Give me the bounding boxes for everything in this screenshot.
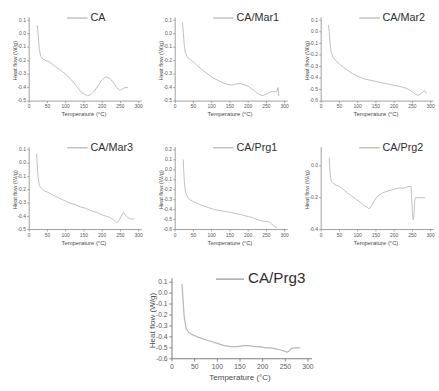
- x-tick-label: 250: [116, 104, 125, 109]
- y-tick-label: 0.1: [19, 147, 26, 152]
- panel-ca-mar2: 0501001502002503000.10.0-0.1-0.2-0.3-0.4…: [292, 0, 438, 130]
- plot-area: 0501001502002503000.10.0-0.1-0.2-0.3-0.4…: [120, 258, 320, 391]
- y-tick-label: -0.4: [163, 207, 172, 212]
- x-axis-title: Temperature (°C): [354, 240, 399, 246]
- y-tick-label: 0.1: [165, 157, 172, 162]
- y-tick-label: -0.3: [17, 71, 26, 76]
- data-curve: [183, 23, 279, 96]
- panel-ca-prg2: 0501001502002503000.0-0.2-0.4Temperature…: [292, 130, 438, 258]
- y-tick-label: -0.5: [309, 87, 318, 92]
- x-tick-label: 300: [281, 233, 290, 238]
- plot-area: 0501001502002503000.10.0-0.1-0.2-0.3-0.4…: [292, 0, 438, 130]
- y-tick-label: -0.4: [17, 214, 26, 219]
- y-tick-label: -0.4: [309, 227, 318, 232]
- legend-label: CA/Prg2: [383, 141, 424, 153]
- x-tick-label: 150: [226, 104, 235, 109]
- plot-area: 0501001502002503000.10.0-0.1-0.2-0.3-0.4…: [0, 0, 146, 130]
- y-axis-title: Heat flow (W/g): [158, 170, 164, 209]
- x-tick-label: 300: [281, 104, 290, 109]
- y-tick-label: 0.2: [165, 147, 172, 152]
- x-tick-label: 200: [98, 104, 107, 109]
- y-axis-title: Heat flow (W/g): [12, 41, 18, 81]
- y-axis-title: Heat flow (W/g): [158, 41, 164, 81]
- y-tick-label: -0.4: [163, 85, 172, 90]
- data-curve: [37, 154, 134, 223]
- x-axis-title: Temperature (°C): [208, 111, 253, 117]
- y-tick-label: 0.0: [158, 289, 168, 296]
- x-tick-label: 50: [45, 104, 51, 109]
- y-tick-label: -0.1: [17, 44, 26, 49]
- y-axis-title: Heat flow (W/g): [12, 170, 18, 209]
- x-tick-label: 300: [302, 363, 314, 370]
- plot-area: 0501001502002503000.10.0-0.1-0.2-0.3-0.4…: [146, 0, 292, 130]
- x-tick-label: 250: [279, 363, 291, 370]
- y-tick-label: -0.5: [17, 227, 26, 232]
- y-tick-label: -0.1: [163, 44, 172, 49]
- axis-lines: [321, 17, 433, 101]
- y-tick-label: -0.4: [309, 75, 318, 80]
- data-curve: [181, 284, 299, 352]
- panel-row-2: 0501001502002503000.10.0-0.1-0.2-0.3-0.4…: [0, 130, 439, 258]
- x-tick-label: 300: [427, 104, 436, 109]
- x-tick-label: 50: [45, 233, 51, 238]
- axis-lines: [175, 17, 287, 101]
- panel-ca-mar1: 0501001502002503000.10.0-0.1-0.2-0.3-0.4…: [146, 0, 292, 130]
- x-axis-title: Temperature (°C): [354, 111, 399, 117]
- x-tick-label: 150: [372, 233, 381, 238]
- plot-area: 0501001502002503000.10.0-0.1-0.2-0.3-0.4…: [0, 130, 146, 258]
- x-tick-label: 0: [28, 233, 31, 238]
- axis-lines: [29, 17, 141, 101]
- x-tick-label: 150: [234, 363, 246, 370]
- y-tick-label: -0.3: [17, 200, 26, 205]
- x-tick-label: 150: [372, 104, 381, 109]
- y-tick-label: -0.5: [163, 217, 172, 222]
- y-tick-label: -0.2: [17, 58, 26, 63]
- x-tick-label: 150: [80, 104, 89, 109]
- axis-lines: [175, 147, 287, 229]
- plot-area: 0501001502002503000.0-0.2-0.4Temperature…: [292, 130, 438, 258]
- axis-lines: [321, 147, 433, 229]
- x-tick-label: 300: [135, 233, 144, 238]
- legend-label: CA/Prg1: [237, 141, 278, 153]
- x-tick-label: 0: [170, 363, 174, 370]
- y-tick-label: -0.2: [309, 195, 318, 200]
- x-tick-label: 200: [390, 233, 399, 238]
- x-tick-label: 250: [262, 104, 271, 109]
- x-tick-label: 50: [191, 104, 197, 109]
- x-tick-label: 250: [408, 233, 417, 238]
- y-tick-label: 0.0: [165, 31, 172, 36]
- y-tick-label: 0.0: [311, 29, 318, 34]
- y-tick-label: 0.1: [165, 18, 172, 23]
- y-tick-label: -0.4: [17, 85, 26, 90]
- x-tick-label: 0: [174, 104, 177, 109]
- x-tick-label: 100: [62, 104, 71, 109]
- x-axis-title: Temperature (°C): [209, 373, 271, 382]
- x-tick-label: 100: [211, 363, 223, 370]
- plot-area: 0501001502002503000.20.10.0-0.1-0.2-0.3-…: [146, 130, 292, 258]
- x-tick-label: 250: [262, 233, 271, 238]
- y-tick-label: -0.6: [309, 98, 318, 103]
- x-tick-label: 0: [320, 104, 323, 109]
- y-tick-label: -0.5: [17, 98, 26, 103]
- x-tick-label: 100: [354, 104, 363, 109]
- y-tick-label: 0.1: [158, 278, 168, 285]
- data-curve: [329, 25, 427, 95]
- x-tick-label: 50: [190, 363, 198, 370]
- y-tick-label: 0.0: [19, 31, 26, 36]
- x-tick-label: 200: [98, 233, 107, 238]
- legend-label: CA/Mar1: [237, 11, 280, 23]
- y-tick-label: -0.1: [155, 300, 167, 307]
- x-tick-label: 300: [135, 104, 144, 109]
- y-tick-label: -0.2: [17, 187, 26, 192]
- x-tick-label: 100: [354, 233, 363, 238]
- y-axis-title: Heat flow (W/g): [304, 41, 310, 81]
- y-axis-title: Heat flow (W/g): [148, 292, 157, 348]
- x-tick-label: 0: [174, 233, 177, 238]
- y-tick-label: -0.3: [309, 64, 318, 69]
- x-tick-label: 50: [337, 233, 343, 238]
- y-tick-label: 0.0: [165, 167, 172, 172]
- y-tick-label: -0.3: [163, 197, 172, 202]
- x-tick-label: 200: [244, 233, 253, 238]
- x-tick-label: 100: [62, 233, 71, 238]
- y-tick-label: -0.3: [155, 322, 167, 329]
